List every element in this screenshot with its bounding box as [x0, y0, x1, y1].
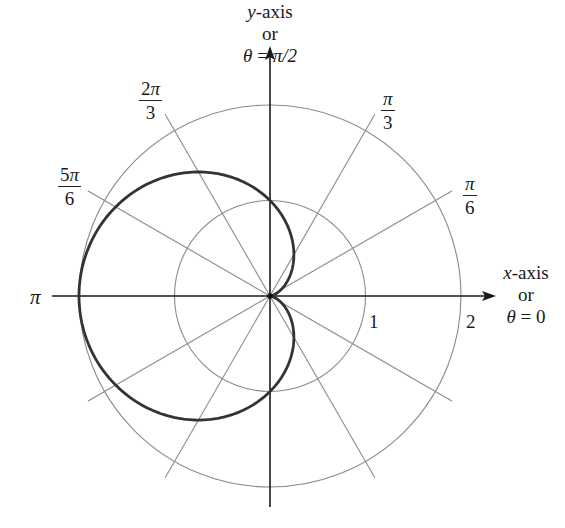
x-axis-var: x — [503, 262, 511, 283]
x-axis-theta: θ — [506, 306, 515, 327]
frac-denominator: 3 — [383, 111, 393, 132]
angle-label-5pi-6: 5π 6 — [58, 165, 81, 208]
radial-ray-330deg — [270, 296, 452, 401]
frac-denominator: 6 — [65, 187, 75, 208]
axes — [52, 48, 494, 507]
radial-ray-60deg — [270, 114, 375, 296]
frac-numerator: π — [463, 174, 477, 196]
y-axis-suffix: -axis — [256, 1, 293, 22]
radial-ray-120deg — [165, 114, 270, 296]
polar-diagram — [0, 0, 565, 528]
y-axis-val: π/2 — [273, 45, 297, 66]
radius-label-2: 2 — [466, 312, 476, 331]
angle-label-pi-3: π 3 — [381, 89, 395, 132]
x-axis-label: x-axis or θ = 0 — [490, 262, 562, 328]
y-axis-eq: = — [252, 45, 272, 66]
y-axis-theta: θ — [243, 45, 252, 66]
angle-label-2pi-3: 2π 3 — [139, 79, 162, 122]
x-axis-eq: = — [516, 306, 536, 327]
frac-coefficient: 2 — [141, 78, 151, 99]
radial-ray-300deg — [270, 296, 375, 478]
y-axis-or: or — [262, 23, 278, 45]
frac-symbol: π — [151, 78, 161, 99]
angle-label-pi-6: π 6 — [463, 174, 477, 217]
radial-ray-240deg — [165, 296, 270, 478]
x-axis-val: 0 — [536, 306, 546, 327]
y-axis-label: y-axis or θ = π/2 — [218, 1, 322, 67]
x-axis-or: or — [518, 284, 534, 306]
angle-label-pi: π — [30, 287, 41, 308]
frac-symbol: π — [70, 164, 80, 185]
y-axis-var: y — [247, 1, 255, 22]
frac-numerator: π — [381, 89, 395, 111]
origin-dot — [267, 293, 272, 298]
frac-denominator: 6 — [465, 196, 475, 217]
radius-label-1: 1 — [369, 312, 379, 331]
x-axis-suffix: -axis — [512, 262, 549, 283]
frac-denominator: 3 — [146, 101, 156, 122]
frac-coefficient: 5 — [60, 164, 70, 185]
radial-ray-30deg — [270, 191, 452, 296]
